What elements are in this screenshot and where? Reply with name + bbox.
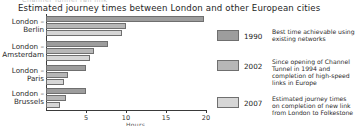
x-tick-mark (86, 110, 87, 113)
x-tick-label-15: 15 (162, 114, 170, 122)
legend-note-line: from London to Folkestone (272, 110, 356, 117)
legend-year-label: 2002 (244, 62, 262, 71)
bar-group: London –Paris (0, 65, 212, 87)
bar-2007 (46, 30, 122, 36)
category-label: London –Amsterdam (0, 43, 44, 60)
clipped-header-text: Channel Tunnel rail link (22, 0, 322, 2)
bar-2002 (46, 48, 94, 54)
bar-2002 (46, 72, 68, 78)
legend-swatch (217, 97, 239, 108)
bar-group: London –Amsterdam (0, 41, 212, 63)
x-tick-label-20: 20 (202, 114, 210, 122)
category-label: London –Brussels (0, 90, 44, 107)
bar-2007 (46, 102, 60, 108)
bar-1990 (46, 88, 86, 94)
legend-note-line: existing networks (272, 36, 356, 43)
bar-2007 (46, 55, 90, 61)
bar-group: London –Brussels (0, 88, 212, 110)
x-tick-mark (206, 110, 207, 113)
legend-swatch (217, 30, 239, 41)
legend-year-label: 1990 (244, 32, 262, 41)
legend-year-label: 2007 (244, 99, 262, 108)
bar-1990 (46, 65, 86, 71)
x-axis-title: Hours (126, 121, 145, 126)
category-label-line: Amsterdam (0, 51, 44, 59)
x-tick-mark (126, 110, 127, 113)
legend-note: Estimated journey timeson completion of … (272, 96, 356, 117)
category-label-line: Brussels (0, 98, 44, 106)
legend-note-line: links in Europe (272, 80, 356, 87)
legend-note: Since opening of ChannelTunnel in 1994 a… (272, 59, 356, 87)
category-label-line: Berlin (0, 26, 44, 34)
x-tick-label-5: 5 (84, 114, 88, 122)
category-label: London –Paris (0, 67, 44, 84)
bar-group: London –Berlin (0, 16, 212, 38)
category-label: London –Berlin (0, 18, 44, 35)
plot-area: 5101520 London –BerlinLondon –AmsterdamL… (0, 14, 212, 114)
legend-swatch (217, 60, 239, 71)
chart-title: Estimated journey times between London a… (18, 3, 320, 13)
x-tick-mark (166, 110, 167, 113)
bar-2007 (46, 79, 64, 85)
category-label-line: Paris (0, 75, 44, 83)
bar-1990 (46, 41, 108, 47)
legend-note: Best time achievable usingexisting netwo… (272, 29, 356, 43)
bar-2002 (46, 23, 126, 29)
bar-2002 (46, 95, 66, 101)
bar-1990 (46, 16, 204, 22)
